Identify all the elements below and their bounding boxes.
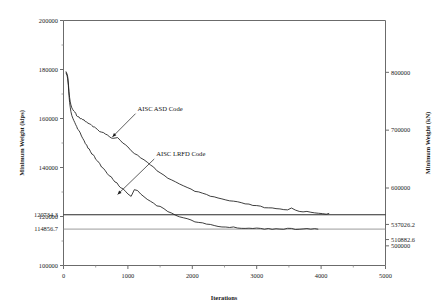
- y-tick-label-right-extra: 537026.2: [391, 221, 415, 228]
- x-axis-title: Iterations: [211, 294, 238, 301]
- y-tick-label-left: 160000: [39, 115, 58, 122]
- y-axis-title-left: Minimum Weight (kips): [18, 110, 26, 176]
- y-tick-label-right: 600000: [391, 184, 410, 191]
- y-tick-label-right: 800000: [391, 69, 410, 76]
- annotation-label-aisc-lrfd-code: AISC LRFD Code: [156, 150, 205, 157]
- y-tick-label-right-extra: 510882.6: [391, 236, 415, 243]
- chart-background: [0, 0, 443, 308]
- x-tick-label: 0: [62, 272, 65, 279]
- x-tick-label: 1000: [122, 272, 135, 279]
- x-tick-label: 5000: [379, 272, 392, 279]
- y-tick-label-left: 100000: [39, 262, 58, 269]
- x-tick-label: 3000: [250, 272, 263, 279]
- y-axis-title-right: Minimum Weight (kN): [424, 112, 432, 174]
- y-tick-label-left-extra: 120734.3: [34, 211, 58, 218]
- annotation-label-aisc-asd-code: AISC ASD Code: [138, 105, 183, 112]
- y-tick-label-left: 180000: [39, 66, 58, 73]
- chart-container: AISC ASD CodeAISC LRFD Code 100000120000…: [0, 0, 443, 308]
- x-tick-label: 4000: [315, 272, 328, 279]
- x-tick-label: 2000: [186, 272, 199, 279]
- y-tick-label-right: 700000: [391, 126, 410, 133]
- y-tick-label-right: 500000: [391, 242, 410, 249]
- iteration-history-chart: AISC ASD CodeAISC LRFD Code 100000120000…: [0, 0, 443, 308]
- y-tick-label-left-extra: 114856.7: [34, 225, 59, 232]
- y-tick-label-left: 200000: [39, 17, 58, 24]
- y-tick-label-left: 140000: [39, 164, 58, 171]
